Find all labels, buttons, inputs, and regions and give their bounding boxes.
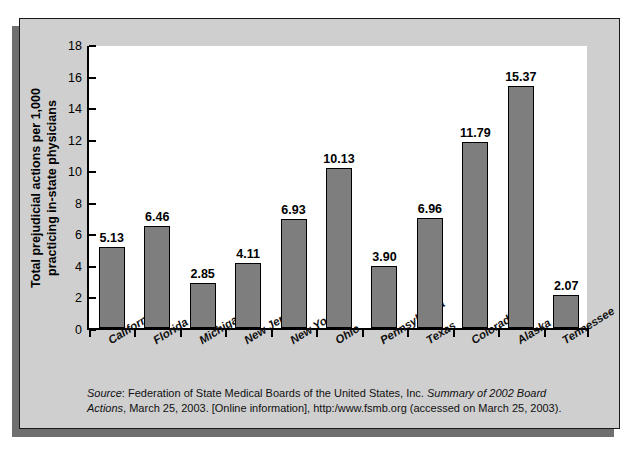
y-axis-tick-label: 0 <box>75 323 82 337</box>
source-note: Source: Federation of State Medical Boar… <box>87 386 587 416</box>
chart-panel: Total prejudicial actions per 1,000 prac… <box>19 18 620 429</box>
figure-container: Total prejudicial actions per 1,000 prac… <box>0 0 630 454</box>
x-axis-tick <box>316 328 318 337</box>
bar-value-label: 4.11 <box>236 247 260 261</box>
y-axis-tick: 18 <box>89 45 96 47</box>
x-axis-tick <box>225 328 227 337</box>
bar-california[interactable]: 5.13 <box>99 247 125 328</box>
bar-value-label: 5.13 <box>100 231 124 245</box>
plot-area: 0246810121416185.13California6.46Florida… <box>87 46 587 330</box>
x-axis-tick <box>453 328 455 337</box>
source-text-part2: , March 25, 2003. [Online information], … <box>123 402 561 414</box>
y-axis-tick: 8 <box>89 203 96 205</box>
bar-new-jersey[interactable]: 4.11 <box>235 263 261 328</box>
y-axis-tick-label: 18 <box>68 39 82 53</box>
bar-ohio[interactable]: 10.13 <box>326 168 352 328</box>
y-axis-tick-label: 12 <box>68 134 82 148</box>
y-axis-tick: 16 <box>89 77 96 79</box>
x-axis-tick <box>498 328 500 337</box>
bar-value-label: 6.96 <box>418 202 442 216</box>
bar-michigan[interactable]: 2.85 <box>190 283 216 328</box>
y-axis-tick: 14 <box>89 108 96 110</box>
y-axis-tick-label: 2 <box>75 291 82 305</box>
x-axis-tick <box>362 328 364 337</box>
x-axis-tick <box>134 328 136 337</box>
x-axis-tick <box>544 328 546 337</box>
bar-tennessee[interactable]: 2.07 <box>553 295 579 328</box>
bar-new-york[interactable]: 6.93 <box>281 219 307 328</box>
y-axis-tick: 2 <box>89 297 96 299</box>
y-axis-tick-label: 8 <box>75 197 82 211</box>
bar-value-label: 3.90 <box>372 250 396 264</box>
plot-inner: 0246810121416185.13California6.46Florida… <box>89 46 587 328</box>
bar-value-label: 2.07 <box>554 279 578 293</box>
source-text-part1: Federation of State Medical Boards of th… <box>128 387 427 399</box>
y-axis-tick: 4 <box>89 266 96 268</box>
x-axis-tick <box>271 328 273 337</box>
bar-alaska[interactable]: 15.37 <box>508 86 534 329</box>
bar-value-label: 6.46 <box>145 210 169 224</box>
bar-value-label: 10.13 <box>323 152 354 166</box>
bar-texas[interactable]: 6.96 <box>417 218 443 328</box>
bar-value-label: 2.85 <box>190 267 214 281</box>
y-axis-tick-label: 6 <box>75 228 82 242</box>
y-axis-title: Total prejudicial actions per 1,000 prac… <box>28 46 62 330</box>
x-axis-tick <box>587 328 589 337</box>
y-axis-tick: 6 <box>89 234 96 236</box>
y-axis-tick-label: 16 <box>68 71 82 85</box>
x-axis-tick <box>180 328 182 337</box>
y-axis-tick-label: 4 <box>75 260 82 274</box>
y-axis-title-line1: Total prejudicial actions per 1,000 <box>29 88 43 288</box>
bar-value-label: 11.79 <box>460 126 491 140</box>
bar-pennsylvania[interactable]: 3.90 <box>371 266 397 328</box>
y-axis-title-line2: practicing in-state physicians <box>45 100 59 276</box>
source-label: Source <box>87 387 122 399</box>
y-axis-tick-label: 10 <box>68 165 82 179</box>
bar-value-label: 15.37 <box>505 70 536 84</box>
y-axis-tick: 12 <box>89 140 96 142</box>
bar-colorado[interactable]: 11.79 <box>462 142 488 328</box>
bar-value-label: 6.93 <box>281 203 305 217</box>
x-axis-tick <box>407 328 409 337</box>
bar-florida[interactable]: 6.46 <box>144 226 170 328</box>
y-axis-tick: 10 <box>89 171 96 173</box>
y-axis-tick-label: 14 <box>68 102 82 116</box>
x-axis-tick <box>89 328 91 337</box>
